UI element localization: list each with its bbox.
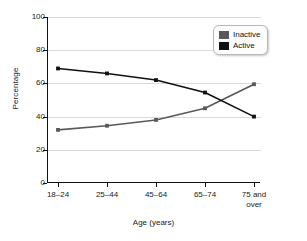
y-tick-label-80: 80: [21, 46, 45, 54]
gridline: [48, 117, 261, 118]
x-tick-label-line: over: [224, 200, 284, 210]
legend: Inactive Active: [213, 25, 268, 55]
gridline: [48, 150, 261, 151]
legend-label-inactive: Inactive: [233, 30, 261, 39]
legend-item-inactive[interactable]: Inactive: [219, 29, 261, 40]
x-tick-mark: [58, 183, 59, 187]
y-tick-label-60: 60: [21, 79, 45, 87]
y-tick-label-40: 40: [21, 113, 45, 121]
y-tick-label-0: 0: [21, 179, 45, 187]
legend-item-active[interactable]: Active: [219, 40, 261, 51]
y-tick-label-20: 20: [21, 146, 45, 154]
x-tick-label-line: 18–24: [47, 190, 69, 199]
x-tick-mark: [156, 183, 157, 187]
x-tick-label-line: 45–64: [145, 190, 167, 199]
gridline: [48, 17, 261, 18]
x-tick-label-line: 65–74: [194, 190, 216, 199]
y-tick-label-100: 100: [21, 13, 45, 21]
x-axis-title: Age (years): [0, 218, 307, 227]
legend-swatch-active: [219, 42, 229, 50]
line-chart: 100 80 60 40 20 0 Percentage 18–24 25–44…: [0, 0, 307, 241]
x-tick-mark: [254, 183, 255, 187]
gridline: [48, 83, 261, 84]
y-axis-title: Percentage: [11, 49, 20, 129]
x-tick-label-75-and-over: 75 and over: [224, 190, 284, 209]
legend-swatch-inactive: [219, 31, 229, 39]
x-tick-mark: [205, 183, 206, 187]
legend-label-active: Active: [233, 41, 255, 50]
x-tick-label-line: 75 and: [224, 190, 284, 200]
x-tick-mark: [107, 183, 108, 187]
x-tick-label-line: 25–44: [96, 190, 118, 199]
